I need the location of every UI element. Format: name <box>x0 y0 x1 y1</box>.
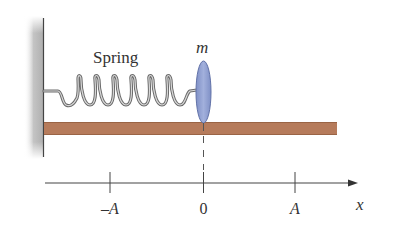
origin-label: 0 <box>200 200 208 217</box>
pos-amplitude-label: A <box>289 200 300 217</box>
spring <box>44 76 197 106</box>
spring-mass-diagram: Spring m –A 0 A x <box>0 0 395 231</box>
x-axis-label: x <box>355 195 364 214</box>
wall <box>24 16 44 159</box>
neg-amplitude-label: –A <box>100 200 119 217</box>
mass-label: m <box>196 38 208 57</box>
surface-plank <box>44 122 337 135</box>
x-axis <box>45 172 358 193</box>
spring-label: Spring <box>93 48 139 67</box>
mass-block <box>196 61 211 123</box>
